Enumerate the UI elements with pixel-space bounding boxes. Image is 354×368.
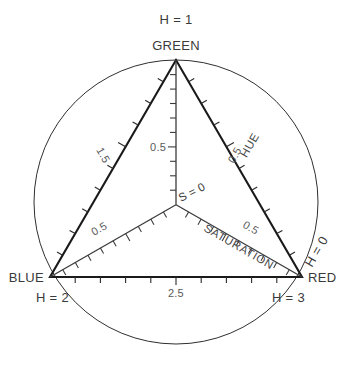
label-h-bottom-left: H = 2: [36, 290, 69, 305]
label-h-top: H = 1: [160, 12, 193, 27]
label-vertex-green: GREEN: [152, 38, 200, 53]
tick-label-lower-right-half: 0.5: [241, 218, 261, 236]
spokes-group: [50, 60, 302, 277]
label-axis-saturation: SATURATION: [202, 222, 276, 272]
label-vertex-blue: BLUE: [9, 270, 44, 285]
tick-label-vertical-half: 0.5: [150, 141, 166, 153]
label-h-right: H = 0: [302, 233, 331, 269]
label-h-bottom-right: H = 3: [272, 290, 305, 305]
label-vertex-red: RED: [308, 270, 336, 285]
hsi-triangle-diagram: H = 1 GREEN BLUE RED H = 2 H = 3 H = 0 S…: [0, 0, 354, 368]
label-s-center: S = 0: [176, 180, 207, 203]
tick-label-bottom-twofive: 2.5: [168, 287, 184, 299]
ticks-spoke-blue: [63, 212, 167, 275]
figure-canvas: H = 1 GREEN BLUE RED H = 2 H = 3 H = 0 S…: [0, 0, 354, 368]
ticks-spoke-green: [168, 75, 176, 191]
tick-label-lower-left-half: 0.5: [89, 219, 109, 237]
ticks-edge-blue-red: [75, 277, 277, 285]
tick-label-upper-left-onefive: 1.5: [94, 145, 112, 165]
